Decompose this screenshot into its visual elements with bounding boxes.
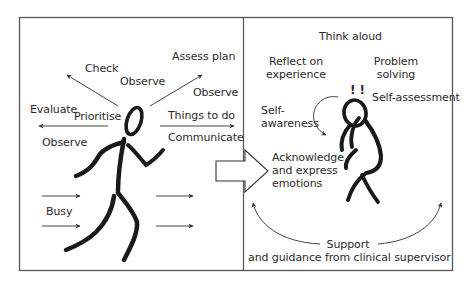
label-support-guidance: Support and guidance from clinical super…: [248, 238, 448, 264]
reflect-line-2: experience: [256, 68, 336, 81]
transition-arrow-icon: [216, 150, 268, 192]
exclamation-marks: ! !: [350, 84, 365, 97]
label-busy: Busy: [46, 205, 72, 218]
problem-line-1: Problem: [361, 55, 431, 68]
acknowledge-line-1: Acknowledge: [272, 151, 344, 164]
label-self-awareness: Self- awareness: [261, 104, 319, 130]
arrow-check-icon: [67, 75, 118, 106]
thinking-figure-icon: [341, 98, 381, 202]
support-line-1: Support: [248, 238, 448, 251]
label-reflect-on-experience: Reflect on experience: [256, 55, 336, 81]
label-things-to-do: Things to do: [168, 109, 235, 122]
acknowledge-line-3: emotions: [272, 177, 344, 190]
label-problem-solving: Problem solving: [361, 55, 431, 81]
label-assess-plan: Assess plan: [172, 50, 235, 63]
label-prioritise: Prioritise: [74, 110, 121, 123]
label-acknowledge-emotions: Acknowledge and express emotions: [272, 151, 344, 190]
reflect-line-1: Reflect on: [256, 55, 336, 68]
label-check: Check: [85, 62, 118, 75]
label-observe-right: Observe: [193, 86, 238, 99]
label-think-aloud: Think aloud: [319, 30, 382, 43]
label-communicate: Communicate: [168, 131, 244, 144]
problem-line-2: solving: [361, 68, 431, 81]
support-line-2: and guidance from clinical supervisor: [248, 251, 448, 264]
label-evaluate: Evaluate: [30, 103, 77, 116]
label-observe-left: Observe: [42, 136, 87, 149]
label-self-assessment: Self-assessment: [372, 91, 460, 104]
running-figure-icon: [66, 106, 163, 260]
self-awareness-line-1: Self-: [261, 104, 319, 117]
diagram: Check Observe Assess plan Observe Evalua…: [0, 0, 471, 286]
acknowledge-line-2: and express: [272, 164, 344, 177]
self-awareness-line-2: awareness: [261, 117, 319, 130]
label-observe-top: Observe: [120, 75, 165, 88]
